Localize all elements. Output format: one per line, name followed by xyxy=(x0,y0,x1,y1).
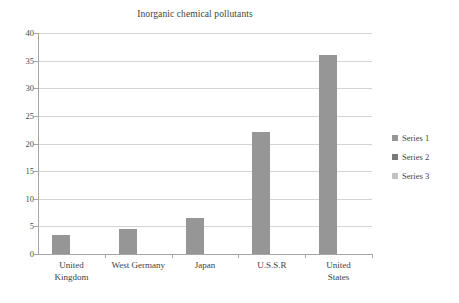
y-axis-tick-label: 5 xyxy=(6,221,34,231)
bars-layer xyxy=(38,33,372,254)
x-axis-category-label-line: United xyxy=(38,260,105,272)
legend-label: Series 1 xyxy=(402,133,429,143)
y-axis-tick-label: 35 xyxy=(6,56,34,66)
y-axis-tick-label: 15 xyxy=(6,166,34,176)
bar-slot xyxy=(105,33,172,254)
x-axis-category-label: Japan xyxy=(172,260,239,272)
y-axis-tick-label: 40 xyxy=(6,28,34,38)
legend-item[interactable]: Series 3 xyxy=(392,166,429,185)
x-axis-tick-mark xyxy=(172,254,173,258)
y-axis-tick-label: 0 xyxy=(6,249,34,259)
bar[interactable] xyxy=(319,55,337,254)
x-axis-tick-mark xyxy=(105,254,106,258)
x-axis-tick-mark xyxy=(372,254,373,258)
x-axis-category-label: UnitedStates xyxy=(305,260,372,283)
x-axis-tick-mark xyxy=(238,254,239,258)
x-axis-category-label-line: Kingdom xyxy=(38,272,105,284)
bar-slot xyxy=(238,33,305,254)
y-axis-tick-labels: 4035302520151050 xyxy=(0,33,34,255)
legend-item[interactable]: Series 2 xyxy=(392,147,429,166)
x-axis-category-label-line: West Germany xyxy=(105,260,172,272)
bar[interactable] xyxy=(252,132,270,254)
x-axis-category-label: West Germany xyxy=(105,260,172,272)
bar[interactable] xyxy=(186,218,204,254)
x-axis-category-label: UnitedKingdom xyxy=(38,260,105,283)
x-axis-tick-mark xyxy=(305,254,306,258)
chart-container: Inorganic chemical pollutants 4035302520… xyxy=(0,0,459,303)
legend-label: Series 2 xyxy=(402,152,429,162)
bar[interactable] xyxy=(52,235,70,254)
legend-swatch-icon xyxy=(392,135,398,141)
y-axis-tick-label: 20 xyxy=(6,139,34,149)
y-axis-tick-label: 25 xyxy=(6,111,34,121)
x-axis-category-label-line: U.S.S.R xyxy=(238,260,305,272)
x-axis-category-label-line: Japan xyxy=(172,260,239,272)
bar-slot xyxy=(38,33,105,254)
y-axis-tick-label: 10 xyxy=(6,194,34,204)
legend-item[interactable]: Series 1 xyxy=(392,128,429,147)
y-axis-tick-label: 30 xyxy=(6,83,34,93)
legend-swatch-icon xyxy=(392,173,398,179)
bar[interactable] xyxy=(119,229,137,254)
bar-slot xyxy=(172,33,239,254)
legend-swatch-icon xyxy=(392,154,398,160)
legend-label: Series 3 xyxy=(402,171,429,181)
x-axis-category-label-line: United xyxy=(305,260,372,272)
x-axis-category-label: U.S.S.R xyxy=(238,260,305,272)
x-axis-category-label-line: States xyxy=(305,272,372,284)
bar-slot xyxy=(305,33,372,254)
x-axis-line xyxy=(38,254,372,255)
chart-legend: Series 1Series 2Series 3 xyxy=(392,128,429,185)
chart-title: Inorganic chemical pollutants xyxy=(0,9,390,19)
